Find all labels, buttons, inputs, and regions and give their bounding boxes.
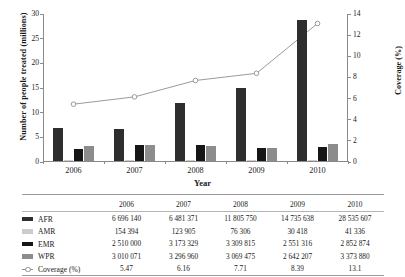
- table-row: WPR3 010 0713 296 9603 069 4752 642 2073…: [22, 250, 384, 263]
- y-axis-right-tick: [348, 98, 351, 99]
- x-axis-tick: [226, 161, 227, 164]
- y-axis-left-title: Number of people treated (millions): [19, 2, 28, 152]
- y-axis-left-tick-label: 30: [9, 10, 39, 18]
- chart-figure: Number of people treated (millions) Cove…: [0, 0, 405, 192]
- x-axis-tick: [287, 161, 288, 164]
- coverage-line: [74, 24, 318, 105]
- y-axis-right-tick-label: 8: [353, 73, 383, 81]
- table-cell: 2 551 316: [269, 238, 326, 251]
- bar-emr-2006: [74, 149, 84, 161]
- table-row-key-emr: EMR: [22, 238, 98, 251]
- y-axis-right-tick-label: 12: [353, 31, 383, 39]
- table-cell: 13.1: [326, 263, 384, 276]
- y-axis-right-tick-label: 6: [353, 95, 383, 103]
- bar-wpr-2008: [206, 146, 216, 161]
- coverage-marker-2008: [193, 78, 198, 83]
- table-cell: 6 481 371: [155, 212, 212, 225]
- table-row: EMR2 510 0003 173 3293 309 8152 551 3162…: [22, 238, 384, 251]
- table-cell: 3 173 329: [155, 238, 212, 251]
- table-row: Coverage (%)5.476.167.718.3913.1: [22, 263, 384, 276]
- x-axis-title: Year: [0, 178, 405, 188]
- y-axis-right-tick-label: 14: [353, 10, 383, 18]
- chart-page: Number of people treated (millions) Cove…: [0, 0, 405, 277]
- bar-amr-2008: [186, 160, 196, 161]
- y-axis-left-tick-label: 0: [9, 158, 39, 166]
- legend-label: Coverage (%): [38, 265, 80, 274]
- legend-swatch-icon-afr: [22, 217, 33, 222]
- x-axis-tick: [348, 161, 349, 164]
- bar-amr-2007: [125, 160, 135, 161]
- table-cell: 123 905: [155, 225, 212, 238]
- x-axis-tick: [104, 161, 105, 164]
- table-row-key-afr: AFR: [22, 212, 98, 225]
- y-axis-left-tick-label: 5: [9, 133, 39, 141]
- x-axis-tick-label-2008: 2008: [166, 166, 226, 175]
- bar-wpr-2007: [145, 145, 155, 161]
- y-axis-left-tick-label: 15: [9, 84, 39, 92]
- x-axis-tick-label-2007: 2007: [105, 166, 165, 175]
- bar-amr-2010: [308, 160, 318, 161]
- table-cell: 2 642 207: [269, 250, 326, 263]
- x-axis-tick-label-2010: 2010: [288, 166, 348, 175]
- table-cell: 30 418: [269, 225, 326, 238]
- bar-wpr-2010: [328, 144, 338, 161]
- bar-afr-2007: [114, 129, 124, 161]
- table-cell: 3 010 071: [98, 250, 155, 263]
- legend-swatch-icon-amr: [22, 229, 33, 234]
- table-cell: 14 735 638: [269, 212, 326, 225]
- y-axis-left-tick-label: 10: [9, 109, 39, 117]
- table-cell: 41 336: [326, 225, 384, 238]
- bar-afr-2006: [53, 128, 63, 161]
- bar-afr-2010: [297, 20, 307, 161]
- table-header-2007: 2007: [155, 199, 212, 212]
- data-table-block: 20062007200820092010 AFR6 696 1406 481 3…: [22, 194, 384, 277]
- table-cell: 5.47: [98, 263, 155, 276]
- y-axis-right-tick: [348, 14, 351, 15]
- bar-wpr-2009: [267, 148, 277, 161]
- bar-emr-2009: [257, 148, 267, 161]
- table-cell: 3 296 960: [155, 250, 212, 263]
- table-header-2010: 2010: [326, 199, 384, 212]
- bar-afr-2008: [175, 103, 185, 161]
- legend-label: EMR: [38, 240, 54, 249]
- table-cell: 154 394: [98, 225, 155, 238]
- table-cell: 3 069 475: [212, 250, 269, 263]
- x-axis-tick: [43, 161, 44, 164]
- table-cell: 8.39: [269, 263, 326, 276]
- table-cell: 2 852 874: [326, 238, 384, 251]
- y-axis-left-tick: [40, 14, 43, 15]
- y-axis-right-tick: [348, 140, 351, 141]
- y-axis-right-tick-label: 2: [353, 137, 383, 145]
- y-axis-right-tick-label: 4: [353, 116, 383, 124]
- y-axis-left-tick: [40, 112, 43, 113]
- table-row: AMR154 394123 90576 30630 41841 336: [22, 225, 384, 238]
- legend-line-marker-icon: [22, 267, 33, 272]
- bar-afr-2009: [236, 88, 246, 161]
- y-axis-right-tick: [348, 35, 351, 36]
- table-cell: 2 510 000: [98, 238, 155, 251]
- table-body: AFR6 696 1406 481 37111 805 75014 735 63…: [22, 212, 384, 276]
- table-header-2009: 2009: [269, 199, 326, 212]
- y-axis-right-tick: [348, 56, 351, 57]
- y-axis-left-tick-label: 20: [9, 59, 39, 67]
- table-cell: 11 805 750: [212, 212, 269, 225]
- y-axis-right-tick-label: 10: [353, 52, 383, 60]
- table-header-key: [22, 199, 98, 212]
- legend-swatch-icon-wpr: [22, 254, 33, 259]
- legend-label: AFR: [38, 215, 53, 224]
- table-row-key-coverage: Coverage (%): [22, 263, 98, 276]
- table-row-key-wpr: WPR: [22, 250, 98, 263]
- table-cell: 76 306: [212, 225, 269, 238]
- y-axis-left-tick: [40, 137, 43, 138]
- table-cell: 6.16: [155, 263, 212, 276]
- data-table: 20062007200820092010 AFR6 696 1406 481 3…: [22, 194, 384, 277]
- legend-label: AMR: [38, 227, 55, 236]
- y-axis-right-tick: [348, 119, 351, 120]
- bar-emr-2008: [196, 145, 206, 161]
- bar-amr-2006: [64, 160, 74, 161]
- table-cell: 28 535 607: [326, 212, 384, 225]
- y-axis-right-tick-label: 0: [353, 158, 383, 166]
- table-header-2006: 2006: [98, 199, 155, 212]
- bar-amr-2009: [247, 160, 257, 161]
- legend-swatch-icon-emr: [22, 242, 33, 247]
